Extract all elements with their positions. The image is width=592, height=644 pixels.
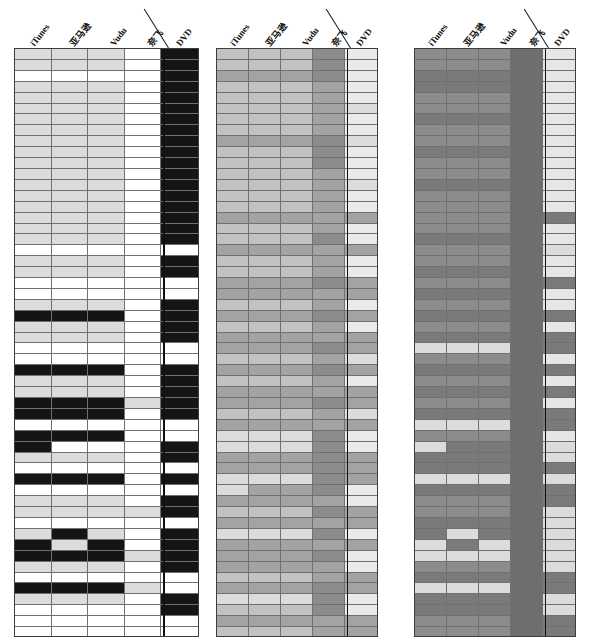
heatmap-cell xyxy=(281,376,313,387)
table-row xyxy=(217,82,377,93)
heatmap-cell xyxy=(345,114,377,125)
heatmap-cell xyxy=(249,463,281,474)
heatmap-cell xyxy=(249,343,281,354)
table-row xyxy=(415,562,575,573)
heatmap-cell xyxy=(415,191,447,202)
table-row xyxy=(415,114,575,125)
heatmap-cell xyxy=(479,136,511,147)
table-row xyxy=(415,82,575,93)
heatmap-cell xyxy=(511,540,543,551)
heatmap-cell xyxy=(15,333,52,344)
heatmap-cell xyxy=(161,354,198,365)
heatmap-cell xyxy=(217,234,249,245)
table-row xyxy=(415,104,575,115)
table-row xyxy=(15,213,198,224)
heatmap-cell xyxy=(511,583,543,594)
column-header-band: iTunes亚马逊Vudu奈飞DVD xyxy=(14,0,199,48)
heatmap-cell xyxy=(15,573,52,584)
table-row xyxy=(415,191,575,202)
heatmap-cell xyxy=(479,354,511,365)
heatmap-cell xyxy=(249,540,281,551)
heatmap-cell xyxy=(313,322,345,333)
heatmap-cell xyxy=(15,343,52,354)
heatmap-cell xyxy=(15,463,52,474)
heatmap-cell xyxy=(447,387,479,398)
heatmap-cell xyxy=(479,333,511,344)
heatmap-cell xyxy=(345,267,377,278)
table-row xyxy=(15,463,198,474)
heatmap-cell xyxy=(15,409,52,420)
heatmap-cell xyxy=(88,496,125,507)
heatmap-cell xyxy=(52,387,89,398)
heatmap-cell xyxy=(543,169,575,180)
heatmap-grid xyxy=(14,48,199,637)
heatmap-cell xyxy=(313,453,345,464)
heatmap-cell xyxy=(479,551,511,562)
heatmap-cell xyxy=(15,147,52,158)
heatmap-cell xyxy=(88,463,125,474)
heatmap-cell xyxy=(52,213,89,224)
heatmap-cell xyxy=(543,605,575,616)
heatmap-cell xyxy=(217,82,249,93)
heatmap-cell xyxy=(161,420,198,431)
heatmap-cell xyxy=(161,453,198,464)
heatmap-cell xyxy=(125,343,162,354)
column-label-physical-dvd: DVD xyxy=(355,27,374,48)
heatmap-cell xyxy=(249,573,281,584)
column-label-streaming-amazon: 亚马逊 xyxy=(463,21,487,48)
heatmap-cell xyxy=(52,180,89,191)
table-row xyxy=(15,420,198,431)
heatmap-cell xyxy=(52,289,89,300)
heatmap-cell xyxy=(125,125,162,136)
heatmap-cell xyxy=(345,289,377,300)
heatmap-cell xyxy=(249,136,281,147)
heatmap-cell xyxy=(345,463,377,474)
heatmap-cell xyxy=(511,474,543,485)
heatmap-cell xyxy=(125,71,162,82)
heatmap-cell xyxy=(479,376,511,387)
heatmap-cell xyxy=(543,147,575,158)
heatmap-cell xyxy=(543,431,575,442)
heatmap-cell xyxy=(161,442,198,453)
heatmap-cell xyxy=(15,420,52,431)
heatmap-cell xyxy=(479,485,511,496)
table-row xyxy=(217,213,377,224)
heatmap-cell xyxy=(313,278,345,289)
heatmap-cell xyxy=(345,311,377,322)
heatmap-cell xyxy=(479,114,511,125)
heatmap-cell xyxy=(415,104,447,115)
heatmap-cell xyxy=(543,191,575,202)
heatmap-cell xyxy=(161,202,198,213)
heatmap-cell xyxy=(447,616,479,627)
heatmap-cell xyxy=(313,136,345,147)
heatmap-cell xyxy=(52,93,89,104)
heatmap-cell xyxy=(345,365,377,376)
heatmap-cell xyxy=(313,60,345,71)
heatmap-cell xyxy=(249,474,281,485)
table-row xyxy=(217,594,377,605)
heatmap-cell xyxy=(249,551,281,562)
heatmap-cell xyxy=(281,82,313,93)
heatmap-cell xyxy=(125,442,162,453)
heatmap-cell xyxy=(249,202,281,213)
table-row xyxy=(15,202,198,213)
heatmap-cell xyxy=(15,387,52,398)
heatmap-cell xyxy=(543,627,575,637)
heatmap-cell xyxy=(88,540,125,551)
heatmap-cell xyxy=(511,311,543,322)
table-row xyxy=(217,551,377,562)
heatmap-cell xyxy=(125,594,162,605)
table-row xyxy=(415,409,575,420)
heatmap-cell xyxy=(415,93,447,104)
table-row xyxy=(415,245,575,256)
heatmap-cell xyxy=(88,245,125,256)
heatmap-cell xyxy=(15,114,52,125)
column-label-streaming-itunes: iTunes xyxy=(427,23,450,48)
heatmap-cell xyxy=(415,71,447,82)
heatmap-cell xyxy=(479,147,511,158)
heatmap-cell xyxy=(249,289,281,300)
heatmap-cell xyxy=(88,169,125,180)
table-row xyxy=(217,616,377,627)
heatmap-cell xyxy=(345,540,377,551)
table-row xyxy=(15,583,198,594)
